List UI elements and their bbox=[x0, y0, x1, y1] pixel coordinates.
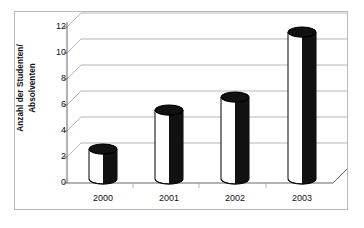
x-tick-2001: 2001 bbox=[146, 194, 192, 203]
x-tick-2000: 2000 bbox=[80, 194, 126, 203]
x-tick-2003: 2003 bbox=[279, 194, 325, 203]
x-tick-2002: 2002 bbox=[212, 194, 258, 203]
x-axis-tick-labels: 2000 2001 2002 2003 bbox=[0, 0, 364, 228]
